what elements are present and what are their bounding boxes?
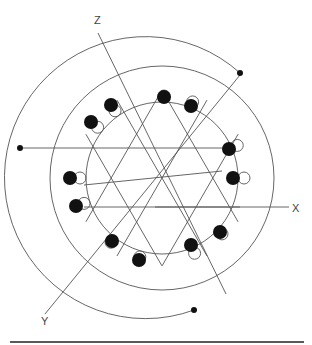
- axis-label-y: Y: [41, 315, 49, 327]
- triangle-line: [86, 90, 162, 222]
- coil-dot: [105, 234, 119, 248]
- coil-dot: [157, 90, 171, 104]
- coil-dot: [184, 238, 198, 252]
- axis-label-z: Z: [94, 14, 101, 26]
- axis-y: [45, 75, 240, 314]
- coil-dot: [222, 142, 236, 156]
- chord-lines: [20, 148, 240, 207]
- coil-dot: [184, 99, 198, 113]
- coil-dot: [69, 199, 83, 213]
- coil-dot: [104, 98, 118, 112]
- coil-dot: [226, 171, 240, 185]
- axes: [45, 33, 289, 314]
- axis-labels: ZXY: [41, 14, 300, 327]
- coil-dot: [213, 225, 227, 239]
- triangle-line: [86, 134, 162, 266]
- terminal-dot: [191, 307, 197, 313]
- outer-arc: [4, 37, 240, 319]
- winding-diagram: ZXY: [0, 0, 312, 345]
- coil-dot: [84, 115, 98, 129]
- axis-label-x: X: [292, 202, 300, 214]
- coil-dot: [132, 253, 146, 267]
- middle-chord: [84, 171, 222, 185]
- coil-dot: [63, 171, 77, 185]
- terminal-dot: [237, 70, 243, 76]
- terminal-dot: [17, 145, 23, 151]
